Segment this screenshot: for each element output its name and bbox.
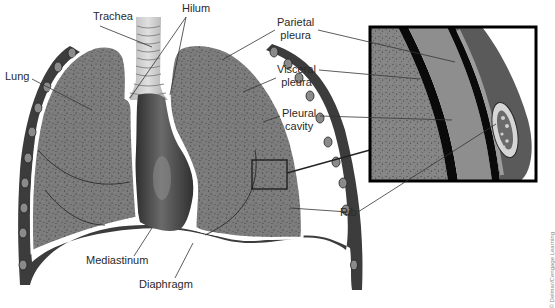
label-rib: Rib <box>340 206 357 219</box>
label-visceral-pleura-line1: Visceral <box>277 63 316 76</box>
label-visceral-pleura-line2: pleura <box>277 76 316 89</box>
label-trachea: Trachea <box>93 10 133 23</box>
label-pleural-cavity-line1: Pleural <box>282 107 316 120</box>
pleura-inset <box>370 27 536 181</box>
label-hilum: Hilum <box>182 2 210 15</box>
label-parietal-pleura-line1: Parietal <box>277 16 314 29</box>
label-pleural-cavity-line2: cavity <box>282 120 316 133</box>
copyright-credit-text: © Delmar/Cengage Learning <box>549 232 555 308</box>
label-pleural-cavity: Pleural cavity <box>282 107 316 133</box>
label-visceral-pleura: Visceral pleura <box>277 63 316 89</box>
trachea <box>128 17 168 100</box>
label-mediastinum: Mediastinum <box>86 254 148 267</box>
label-parietal-pleura-line2: pleura <box>277 29 314 42</box>
label-parietal-pleura: Parietal pleura <box>277 16 314 42</box>
label-diaphragm: Diaphragm <box>139 278 193 291</box>
label-lung: Lung <box>5 70 29 83</box>
